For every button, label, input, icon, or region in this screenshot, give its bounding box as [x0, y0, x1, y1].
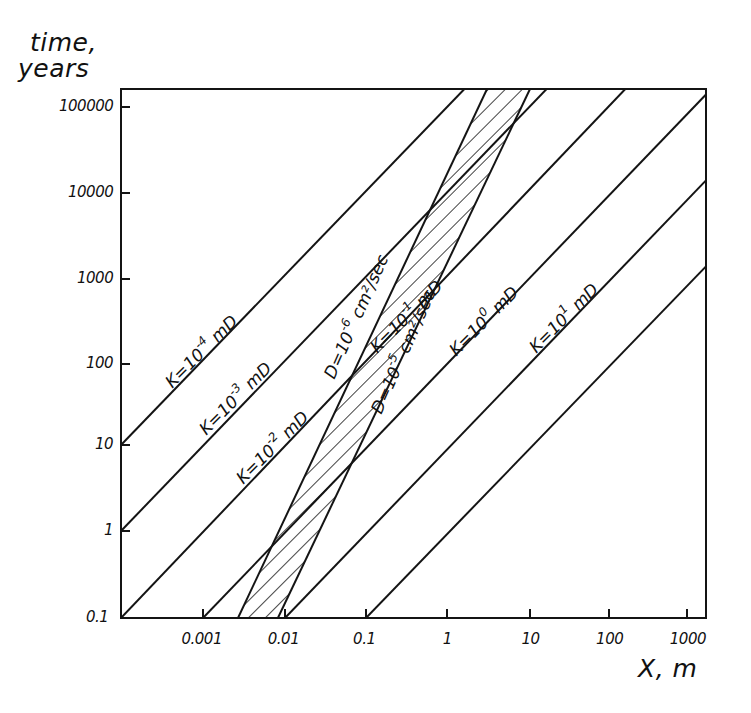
x-tick-label: 100: [596, 630, 623, 648]
y-tick-label: 100: [86, 354, 113, 372]
x-axis-title: X, m: [638, 656, 697, 682]
x-tick-label: 0.01: [268, 630, 299, 648]
x-tick-label: 0.1: [353, 630, 375, 648]
x-tick-label: 1000: [670, 630, 706, 648]
y-axis-title-line2: years: [18, 56, 97, 82]
y-tick-label: 10: [95, 435, 113, 453]
diffusion-band-hatched: [238, 89, 530, 618]
y-tick-label: 10000: [68, 183, 113, 201]
y-tick-label: 1: [104, 521, 113, 539]
y-axis-title: time, years: [30, 30, 97, 82]
x-tick-label: 1: [443, 630, 452, 648]
x-tick-label: 0.001: [182, 630, 222, 648]
y-tick-label: 100000: [59, 97, 113, 115]
y-tick-label: 0.1: [86, 608, 108, 626]
x-tick-label: 10: [521, 630, 539, 648]
y-tick-label: 1000: [77, 269, 113, 287]
y-axis-title-line1: time,: [30, 30, 97, 56]
hatched-band-fill: [238, 89, 530, 618]
